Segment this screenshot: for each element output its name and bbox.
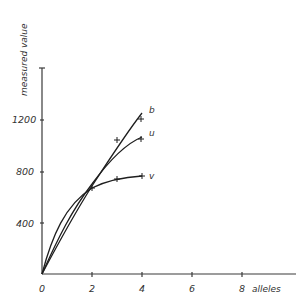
series-label-u: u bbox=[149, 128, 155, 138]
series-label-v: v bbox=[149, 171, 155, 181]
x-tick-label-4: 4 bbox=[139, 283, 145, 294]
x-tick-label-6: 6 bbox=[189, 283, 195, 294]
x-tick-label-8: 8 bbox=[239, 283, 245, 294]
curve-u bbox=[42, 137, 142, 274]
chart: 1200 800 400 0 2 4 6 8 alleles measured … bbox=[0, 0, 306, 307]
x-tick-label-0: 0 bbox=[39, 283, 45, 294]
y-tick-label-1200: 1200 bbox=[12, 114, 36, 125]
x-tick-label-2: 2 bbox=[89, 283, 95, 294]
y-tick-label-400: 400 bbox=[16, 218, 34, 229]
x-axis-title: alleles bbox=[252, 284, 281, 294]
series-label-b: b bbox=[149, 105, 155, 115]
y-axis-title: measured value bbox=[19, 23, 29, 96]
y-tick-label-800: 800 bbox=[16, 166, 34, 177]
markers-u bbox=[138, 136, 144, 142]
curve-b bbox=[42, 113, 142, 274]
markers-v bbox=[89, 173, 145, 191]
